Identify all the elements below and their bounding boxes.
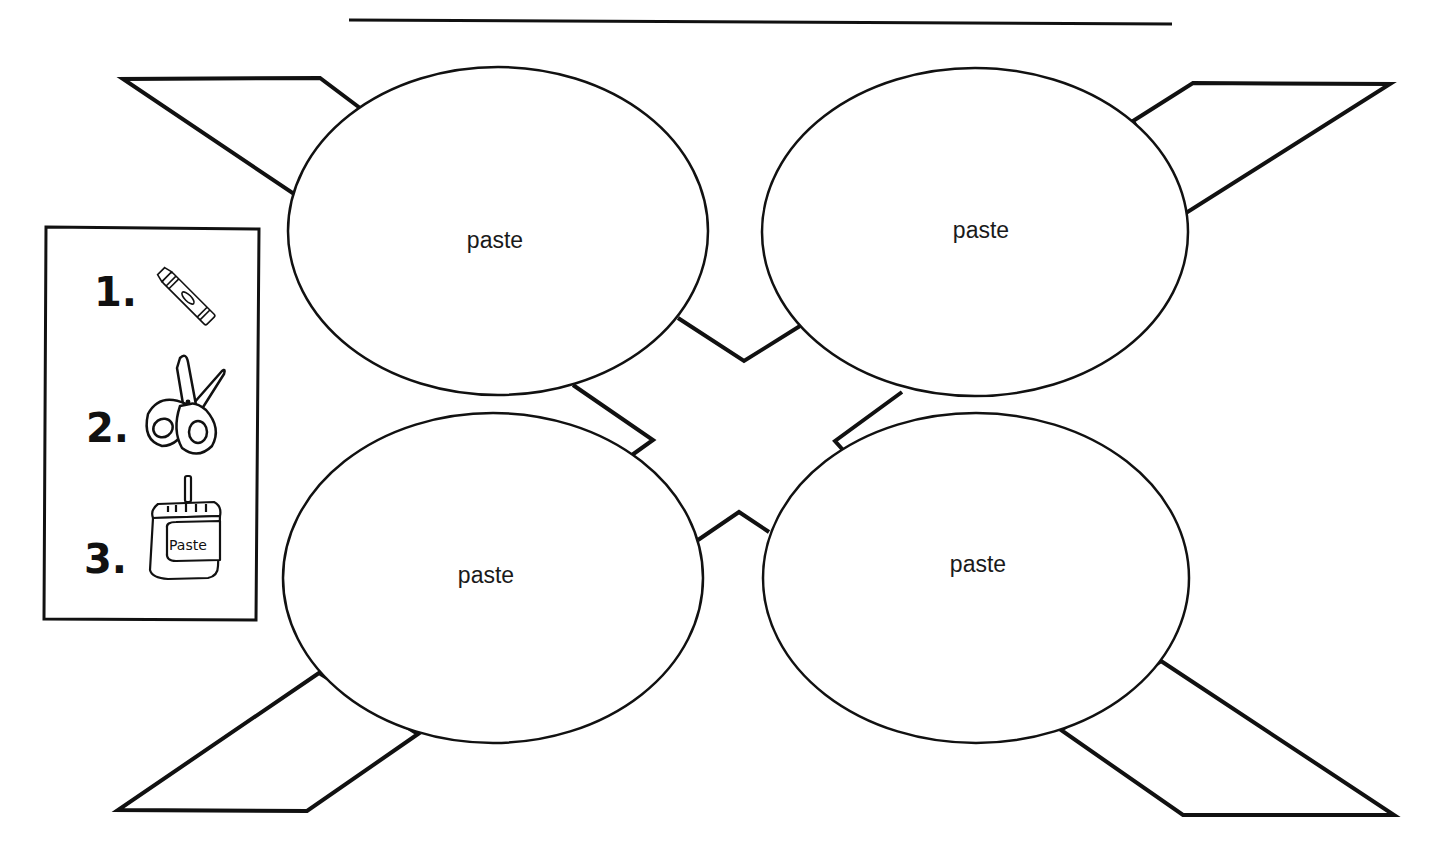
step-2-number: 2.: [86, 405, 129, 451]
paste-label: paste: [458, 562, 514, 588]
center-top-v: [678, 318, 800, 361]
jar-label-text: Paste: [169, 537, 207, 553]
paste-ellipse-bottom-right[interactable]: paste: [763, 413, 1189, 743]
step-3-number: 3.: [84, 536, 127, 582]
worksheet-canvas: paste paste paste paste 1. 2.: [0, 0, 1435, 848]
paste-label: paste: [950, 551, 1006, 577]
paste-ellipse-bottom-left[interactable]: paste: [283, 413, 703, 743]
paste-ellipses: paste paste paste paste: [283, 67, 1189, 743]
paste-label: paste: [953, 217, 1009, 243]
step-1-number: 1.: [94, 269, 137, 315]
center-bottom-v: [698, 512, 769, 540]
paste-label: paste: [467, 227, 523, 253]
name-line: [349, 20, 1172, 24]
paste-ellipse-top-left[interactable]: paste: [288, 67, 708, 395]
paste-ellipse-top-right[interactable]: paste: [762, 68, 1188, 396]
instructions-box: 1. 2. 3. Paste: [44, 227, 259, 620]
